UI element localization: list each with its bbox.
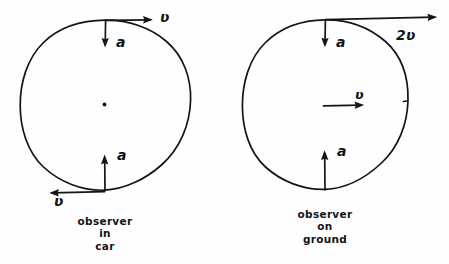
left-top-velocity-label: ʋ <box>160 10 170 25</box>
right-caption-line-1: observer <box>285 208 365 220</box>
right-top-velocity-label: 2ʋ <box>396 28 416 43</box>
right-bottom-acceleration-arrow <box>321 150 328 190</box>
left-bottom-velocity-label: ʋ <box>54 194 64 209</box>
right-center-velocity-arrow <box>324 102 365 109</box>
physics-diagram: ʋ a a ʋ observer in car 2ʋ a ʋ a observe… <box>0 0 449 264</box>
left-bottom-acceleration-label: a <box>117 148 126 163</box>
left-panel-caption: observer in car <box>65 215 145 252</box>
right-top-acceleration-arrow <box>321 20 328 48</box>
right-panel-caption: observer on ground <box>285 208 365 245</box>
left-wheel-center-dot <box>103 103 107 107</box>
left-top-acceleration-arrow <box>102 20 109 47</box>
right-bottom-acceleration-label: a <box>337 144 346 159</box>
right-wheel-edge-tick <box>403 101 406 102</box>
right-center-velocity-label: ʋ <box>355 88 364 102</box>
left-top-acceleration-label: a <box>116 35 125 50</box>
right-top-acceleration-label: a <box>336 35 345 50</box>
left-caption-line-3: car <box>65 240 145 252</box>
left-caption-line-1: observer <box>65 215 145 227</box>
left-bottom-acceleration-arrow <box>101 155 108 191</box>
right-top-velocity-arrow <box>325 14 437 21</box>
right-caption-line-2: on <box>285 220 365 232</box>
right-caption-line-3: ground <box>285 233 365 245</box>
left-caption-line-2: in <box>65 227 145 239</box>
